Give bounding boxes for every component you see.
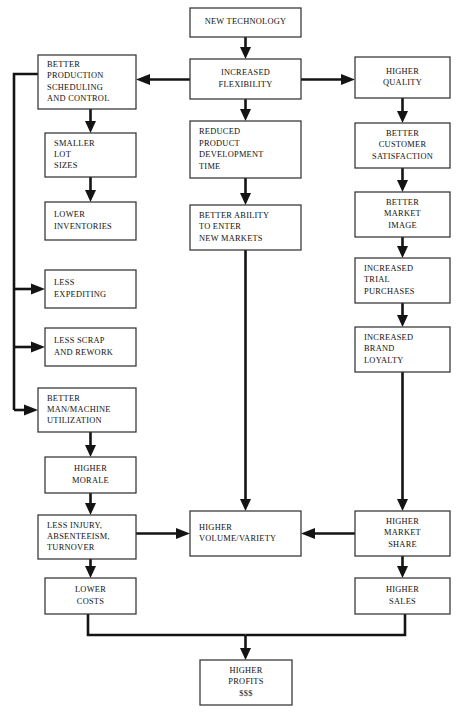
- edge-smaller-lot-sizes-to-lower-inventories: [85, 177, 96, 202]
- node-label-line: QUALITY: [383, 78, 422, 87]
- edge-better-customer-satisfaction-to-better-market-image: [397, 168, 408, 192]
- node-label-line: HIGHER: [386, 585, 419, 594]
- node-label-line: AND REWORK: [54, 348, 113, 357]
- node-label-line: COSTS: [77, 597, 104, 606]
- edge-higher-quality-to-better-customer-satisfaction: [397, 98, 408, 123]
- edge-better-production-to-smaller-lot-sizes: [85, 109, 96, 133]
- node-label-line: LOWER: [75, 585, 106, 594]
- edge-better-production-spine-to-less-scrap-and-rework: [14, 342, 45, 353]
- node-smaller-lot-sizes[interactable]: SMALLERLOTSIZES: [45, 133, 136, 177]
- edge-higher-market-share-to-higher-volume-variety: [301, 528, 355, 539]
- node-label-line: HIGHER: [199, 523, 232, 532]
- node-better-man-machine-utilization[interactable]: BETTERMAN/MACHINEUTILIZATION: [38, 388, 136, 432]
- node-label-line: VOLUME/VARIETY: [199, 534, 276, 543]
- edge-better-ability-to-higher-volume-variety: [240, 250, 251, 511]
- flowchart-svg: NEW TECHNOLOGYINCREASEDFLEXIBILITYREDUCE…: [0, 0, 459, 713]
- node-label-line: BETTER ABILITY: [199, 211, 269, 220]
- edge-better-production-spine-to-less-expediting: [14, 284, 45, 295]
- node-label-line: TIME: [199, 162, 220, 171]
- node-label-line: SIZES: [54, 161, 78, 170]
- node-label-line: UTILIZATION: [47, 416, 102, 425]
- node-label-line: EXPEDITING: [54, 290, 106, 299]
- node-label-line: NEW MARKETS: [199, 234, 263, 243]
- node-label-line: BRAND: [364, 344, 395, 353]
- node-label-line: LOYALTY: [364, 356, 404, 365]
- edge-increased-flexibility-to-reduced-product-development-time: [240, 99, 251, 121]
- edge-higher-morale-to-less-injury: [85, 493, 96, 515]
- node-label-line: LESS INJURY,: [47, 521, 102, 530]
- edge-less-injury-to-higher-volume-variety: [136, 528, 190, 539]
- node-label-line: BETTER: [47, 60, 80, 69]
- edge-increased-flexibility-to-higher-quality: [301, 74, 355, 85]
- node-label-line: PURCHASES: [364, 287, 415, 296]
- edge-better-man-machine-to-higher-morale: [85, 432, 96, 457]
- node-label-line: MAN/MACHINE: [47, 405, 111, 414]
- node-label-line: SCHEDULING: [47, 83, 103, 92]
- edge-less-injury-to-lower-costs: [85, 559, 96, 578]
- node-label-line: INCREASED: [364, 264, 413, 273]
- edge-higher-market-share-to-higher-sales: [397, 556, 408, 578]
- node-label-line: SALES: [389, 597, 416, 606]
- node-better-customer-satisfaction[interactable]: BETTERCUSTOMERSATISFACTION: [355, 123, 450, 168]
- node-better-market-image[interactable]: BETTERMARKETIMAGE: [355, 192, 450, 237]
- node-label-line: ABSENTEEISM,: [47, 532, 110, 541]
- node-label-line: IMAGE: [388, 221, 417, 230]
- node-label-line: INCREASED: [364, 333, 413, 342]
- node-increased-flexibility[interactable]: INCREASEDFLEXIBILITY: [190, 59, 301, 99]
- node-less-injury-absenteeism-turnover[interactable]: LESS INJURY,ABSENTEEISM,TURNOVER: [38, 515, 136, 559]
- node-higher-profits[interactable]: HIGHERPROFITS$$$: [200, 660, 292, 705]
- node-label-line: MARKET: [384, 209, 421, 218]
- node-lower-costs[interactable]: LOWERCOSTS: [45, 578, 136, 614]
- node-lower-inventories[interactable]: LOWERINVENTORIES: [45, 202, 136, 240]
- node-label-line: HIGHER: [386, 67, 419, 76]
- edge-increased-flexibility-to-better-production: [136, 74, 190, 85]
- node-better-ability-to-enter-new-markets[interactable]: BETTER ABILITYTO ENTERNEW MARKETS: [190, 205, 301, 250]
- node-label-line: LESS: [54, 278, 75, 287]
- edge-lower-costs-to-higher-profits: [88, 614, 246, 635]
- node-label-line: INVENTORIES: [54, 222, 112, 231]
- node-label-line: MARKET: [384, 528, 421, 537]
- node-better-production-scheduling-and-control[interactable]: BETTERPRODUCTIONSCHEDULINGAND CONTROL: [38, 55, 136, 109]
- node-label-line: PROFITS: [228, 677, 263, 686]
- edge-increased-brand-loyalty-to-higher-market-share: [397, 372, 408, 511]
- node-label-line: HIGHER: [74, 464, 107, 473]
- node-label-line: HIGHER: [386, 517, 419, 526]
- node-increased-trial-purchases[interactable]: INCREASEDTRIALPURCHASES: [355, 258, 450, 303]
- node-label-line: TO ENTER: [199, 222, 241, 231]
- node-label-line: CUSTOMER: [379, 140, 427, 149]
- node-label-line: AND CONTROL: [47, 94, 110, 103]
- edge-better-production-left-spine: [14, 74, 38, 410]
- node-less-scrap-and-rework[interactable]: LESS SCRAPAND REWORK: [45, 328, 136, 366]
- node-label-line: LOT: [54, 150, 71, 159]
- edge-reduced-product-development-time-to-better-ability: [240, 178, 251, 205]
- edge-better-production-spine-to-better-man-machine-utilization: [14, 405, 38, 416]
- node-label-line: PRODUCT: [199, 139, 240, 148]
- node-label-line: NEW TECHNOLOGY: [205, 17, 287, 26]
- node-label-line: PRODUCTION: [47, 71, 103, 80]
- node-label-line: DEVELOPMENT: [199, 150, 264, 159]
- node-label-line: HIGHER: [229, 666, 262, 675]
- edge-higher-sales-to-higher-profits: [240, 614, 405, 660]
- node-new-technology[interactable]: NEW TECHNOLOGY: [190, 8, 301, 37]
- node-higher-volume-variety[interactable]: HIGHERVOLUME/VARIETY: [190, 511, 301, 556]
- node-label-line: LOWER: [54, 210, 85, 219]
- node-label-line: SHARE: [388, 540, 417, 549]
- node-label-line: INCREASED: [221, 68, 270, 77]
- node-reduced-product-development-time[interactable]: REDUCEDPRODUCTDEVELOPMENTTIME: [190, 121, 301, 178]
- node-label-line: MORALE: [72, 476, 109, 485]
- node-higher-quality[interactable]: HIGHERQUALITY: [355, 57, 450, 98]
- node-label-line: FLEXIBILITY: [219, 80, 273, 89]
- node-less-expediting[interactable]: LESSEXPEDITING: [45, 270, 136, 308]
- node-higher-sales[interactable]: HIGHERSALES: [355, 578, 450, 614]
- node-label-line: BETTER: [47, 394, 80, 403]
- node-increased-brand-loyalty[interactable]: INCREASEDBRANDLOYALTY: [355, 327, 450, 372]
- node-higher-market-share[interactable]: HIGHERMARKETSHARE: [355, 511, 450, 556]
- node-label-line: $$$: [239, 689, 252, 698]
- edge-increased-trial-purchases-to-increased-brand-loyalty: [397, 303, 408, 327]
- node-label-line: REDUCED: [199, 127, 240, 136]
- node-label-line: BETTER: [386, 129, 419, 138]
- node-label-line: SMALLER: [54, 139, 95, 148]
- node-label-line: TRIAL: [364, 275, 390, 284]
- node-higher-morale[interactable]: HIGHERMORALE: [45, 457, 136, 493]
- edge-better-market-image-to-increased-trial-purchases: [397, 237, 408, 258]
